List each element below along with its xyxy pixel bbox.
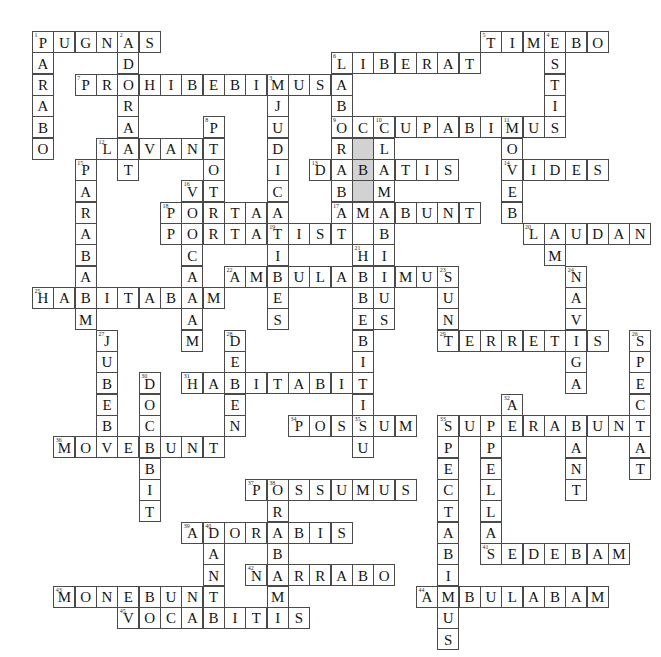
crossword-cell[interactable]: B bbox=[32, 116, 54, 138]
crossword-cell[interactable]: I bbox=[437, 564, 459, 586]
crossword-cell[interactable]: A bbox=[160, 138, 182, 160]
crossword-cell[interactable]: T bbox=[331, 223, 353, 245]
crossword-cell[interactable]: R bbox=[416, 52, 438, 74]
crossword-cell[interactable]: E bbox=[544, 543, 566, 565]
crossword-cell[interactable]: S bbox=[309, 223, 331, 245]
crossword-cell[interactable]: I bbox=[373, 266, 395, 288]
crossword-cell[interactable]: N bbox=[608, 415, 630, 437]
crossword-cell[interactable]: D bbox=[544, 159, 566, 181]
crossword-cell[interactable]: T bbox=[629, 415, 651, 437]
crossword-cell[interactable]: M bbox=[267, 586, 289, 608]
crossword-cell[interactable]: 7P bbox=[75, 74, 97, 96]
crossword-cell[interactable]: I bbox=[352, 351, 374, 373]
crossword-cell[interactable]: O bbox=[203, 159, 225, 181]
crossword-cell[interactable]: U bbox=[373, 415, 395, 437]
crossword-cell[interactable]: T bbox=[437, 500, 459, 522]
crossword-cell[interactable]: S bbox=[373, 308, 395, 330]
crossword-cell[interactable]: P bbox=[480, 415, 502, 437]
crossword-cell[interactable]: A bbox=[181, 287, 203, 309]
crossword-cell[interactable]: S bbox=[437, 628, 459, 650]
crossword-cell[interactable]: A bbox=[53, 287, 75, 309]
crossword-cell[interactable]: N bbox=[181, 436, 203, 458]
crossword-cell[interactable]: T bbox=[267, 372, 289, 394]
crossword-cell[interactable]: U bbox=[352, 436, 374, 458]
crossword-cell[interactable]: B bbox=[437, 543, 459, 565]
crossword-cell[interactable]: A bbox=[373, 202, 395, 224]
crossword-cell[interactable]: M bbox=[203, 287, 225, 309]
crossword-cell[interactable]: 19T bbox=[267, 223, 289, 245]
crossword-cell[interactable]: N bbox=[181, 138, 203, 160]
crossword-cell[interactable]: B bbox=[267, 266, 289, 288]
crossword-cell[interactable]: A bbox=[245, 223, 267, 245]
crossword-cell[interactable]: S bbox=[309, 74, 331, 96]
crossword-cell[interactable]: C bbox=[160, 607, 182, 629]
crossword-cell[interactable]: A bbox=[331, 159, 353, 181]
crossword-cell[interactable]: I bbox=[331, 372, 353, 394]
crossword-cell[interactable]: T bbox=[224, 223, 246, 245]
crossword-cell[interactable]: A bbox=[437, 522, 459, 544]
crossword-cell[interactable]: D bbox=[587, 223, 609, 245]
crossword-cell[interactable]: U bbox=[160, 436, 182, 458]
crossword-cell[interactable]: A bbox=[565, 372, 587, 394]
crossword-cell[interactable]: B bbox=[224, 74, 246, 96]
crossword-cell[interactable]: E bbox=[523, 330, 545, 352]
crossword-cell[interactable]: L bbox=[309, 266, 331, 288]
crossword-cell[interactable]: O bbox=[75, 436, 97, 458]
crossword-cell[interactable]: S bbox=[544, 52, 566, 74]
crossword-cell[interactable]: 3M bbox=[267, 74, 289, 96]
crossword-cell[interactable]: B bbox=[565, 415, 587, 437]
crossword-cell[interactable]: I bbox=[480, 116, 502, 138]
crossword-cell[interactable]: U bbox=[437, 607, 459, 629]
crossword-cell[interactable]: A bbox=[203, 543, 225, 565]
crossword-cell[interactable]: B bbox=[352, 287, 374, 309]
crossword-cell[interactable]: P bbox=[437, 436, 459, 458]
crossword-cell[interactable]: B bbox=[203, 607, 225, 629]
crossword-cell[interactable]: 45V bbox=[117, 607, 139, 629]
crossword-cell[interactable]: T bbox=[117, 159, 139, 181]
crossword-cell[interactable]: U bbox=[288, 266, 310, 288]
crossword-cell[interactable]: M bbox=[352, 202, 374, 224]
crossword-cell[interactable]: P bbox=[160, 223, 182, 245]
crossword-cell[interactable]: M bbox=[608, 543, 630, 565]
crossword-cell[interactable]: R bbox=[501, 330, 523, 352]
crossword-cell[interactable]: M bbox=[352, 479, 374, 501]
crossword-cell[interactable]: G bbox=[75, 31, 97, 53]
crossword-cell[interactable]: O bbox=[75, 586, 97, 608]
crossword-cell[interactable]: P bbox=[480, 436, 502, 458]
crossword-cell[interactable]: B bbox=[501, 202, 523, 224]
crossword-cell[interactable]: B bbox=[160, 287, 182, 309]
crossword-cell[interactable]: E bbox=[352, 308, 374, 330]
crossword-cell[interactable]: I bbox=[267, 607, 289, 629]
crossword-cell[interactable]: U bbox=[96, 351, 118, 373]
crossword-cell[interactable]: B bbox=[459, 586, 481, 608]
crossword-cell[interactable]: 33S bbox=[437, 415, 459, 437]
crossword-cell[interactable]: T bbox=[395, 159, 417, 181]
crossword-cell[interactable]: E bbox=[501, 180, 523, 202]
crossword-cell[interactable]: L bbox=[501, 586, 523, 608]
crossword-cell[interactable]: S bbox=[267, 308, 289, 330]
crossword-cell[interactable]: T bbox=[544, 330, 566, 352]
crossword-cell[interactable]: R bbox=[117, 95, 139, 117]
crossword-cell[interactable]: R bbox=[96, 74, 118, 96]
crossword-cell[interactable]: I bbox=[139, 479, 161, 501]
crossword-cell[interactable]: A bbox=[480, 522, 502, 544]
crossword-cell[interactable]: A bbox=[181, 266, 203, 288]
crossword-cell[interactable]: 6L bbox=[331, 52, 353, 74]
crossword-cell[interactable]: R bbox=[75, 202, 97, 224]
crossword-cell[interactable]: B bbox=[352, 330, 374, 352]
crossword-cell[interactable]: A bbox=[181, 308, 203, 330]
crossword-cell[interactable]: B bbox=[373, 52, 395, 74]
crossword-cell[interactable]: J bbox=[267, 95, 289, 117]
crossword-cell[interactable]: M bbox=[395, 266, 417, 288]
crossword-cell[interactable]: M bbox=[181, 330, 203, 352]
crossword-cell[interactable]: A bbox=[75, 266, 97, 288]
crossword-cell[interactable]: D bbox=[117, 52, 139, 74]
crossword-cell[interactable]: B bbox=[565, 31, 587, 53]
crossword-cell[interactable]: T bbox=[459, 202, 481, 224]
crossword-cell[interactable]: E bbox=[117, 436, 139, 458]
crossword-cell[interactable]: A bbox=[117, 138, 139, 160]
crossword-cell[interactable]: A bbox=[544, 415, 566, 437]
crossword-cell[interactable]: U bbox=[331, 479, 353, 501]
crossword-cell[interactable]: I bbox=[352, 52, 374, 74]
crossword-cell[interactable]: G bbox=[565, 351, 587, 373]
